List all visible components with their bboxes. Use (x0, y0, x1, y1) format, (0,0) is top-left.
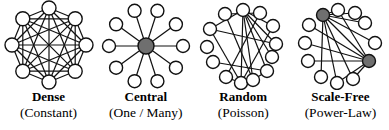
panel-label-central: Central (125, 90, 168, 104)
panel-random: Random (Poisson) (195, 0, 292, 130)
panel-label-scale-free: Scale-Free (311, 90, 369, 104)
scale-free-network-diagram (292, 0, 388, 90)
panel-scale-free: Scale-Free (Power-Law) (292, 0, 389, 130)
network-topologies-figure: Dense (Constant) Central (One / Many) Ra… (0, 0, 389, 130)
panel-label-random: Random (219, 90, 267, 104)
panel-sublabel-central: (One / Many) (109, 104, 182, 121)
panel-sublabel-scale-free: (Power-Law) (305, 104, 377, 121)
central-network-diagram (98, 0, 194, 90)
panel-sublabel-random: (Poisson) (218, 104, 269, 121)
dense-network-diagram (1, 0, 97, 90)
panel-central: Central (One / Many) (97, 0, 194, 130)
panel-dense: Dense (Constant) (0, 0, 97, 130)
panel-sublabel-dense: (Constant) (20, 104, 77, 121)
panel-label-dense: Dense (32, 90, 65, 104)
random-network-diagram (195, 0, 291, 90)
